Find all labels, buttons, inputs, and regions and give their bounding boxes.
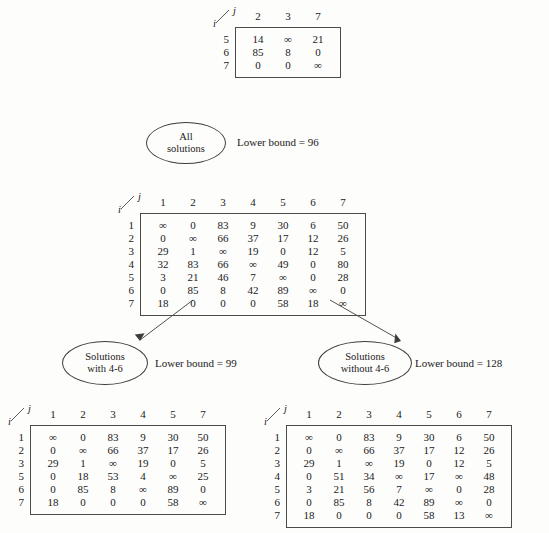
row-header: 3 [264, 457, 287, 470]
table-row: 6 0 85 8 42 89 ∞ 0 [118, 284, 366, 297]
spacer [141, 194, 149, 213]
matrix-cell: 21 [303, 33, 333, 46]
with-4-6-cost-matrix: i j 1 2 3 4 5 7 [8, 406, 226, 515]
row-spacer [213, 72, 236, 78]
table-row [118, 310, 366, 316]
matrix-cell: 56 [354, 483, 384, 496]
spacer [504, 457, 512, 470]
matrix-cell: 46 [208, 271, 238, 284]
matrix-cell: 12 [444, 457, 474, 470]
matrix-cell: 7 [384, 483, 414, 496]
spacer [218, 444, 226, 457]
spacer [358, 232, 366, 245]
matrix-cell: 83 [178, 258, 208, 271]
node-label-line2: with 4-6 [85, 363, 125, 375]
spacer [31, 406, 39, 425]
spacer [188, 509, 218, 515]
node-ellipse[interactable]: All solutions [146, 122, 226, 164]
matrix-cell: 19 [238, 245, 268, 258]
matrix-cell: 17 [158, 444, 188, 457]
matrix-cell: 21 [324, 483, 354, 496]
matrix-cell: 18 [68, 470, 98, 483]
spacer [218, 431, 226, 444]
figure-canvas: i j 2 3 7 5 14 [0, 0, 549, 533]
spacer [354, 522, 384, 528]
matrix-cell: ∞ [414, 483, 444, 496]
matrix-cell: 0 [273, 59, 303, 72]
row-header: 5 [264, 483, 287, 496]
root-cost-matrix: i j 1 2 3 4 5 6 7 [118, 194, 366, 316]
matrix-cell: 0 [178, 297, 208, 310]
table-row: 2 0 ∞ 66 37 17 26 [8, 444, 226, 457]
spacer [218, 509, 226, 515]
table-row: 6 85 8 0 [213, 46, 341, 59]
matrix-cell: 37 [238, 232, 268, 245]
table-row [8, 509, 226, 515]
spacer [358, 297, 366, 310]
node-ellipse[interactable]: Solutions without 4-6 [318, 341, 412, 385]
spacer [268, 310, 298, 316]
matrix-cell: ∞ [178, 232, 208, 245]
table-row [213, 72, 341, 78]
matrix-cell: 0 [188, 483, 218, 496]
matrix-cell: 8 [273, 46, 303, 59]
matrix-cell: 89 [268, 284, 298, 297]
matrix-cell: ∞ [158, 470, 188, 483]
spacer [273, 72, 303, 78]
spacer [358, 310, 366, 316]
matrix-cell: ∞ [208, 245, 238, 258]
node-ellipse[interactable]: Solutions with 4-6 [62, 341, 148, 385]
column-header: 5 [268, 194, 298, 213]
matrix-cell: 50 [328, 219, 358, 232]
spacer [31, 496, 39, 509]
tree-node-all-solutions[interactable]: All solutions [146, 122, 226, 164]
matrix-cell: 89 [414, 496, 444, 509]
table-row: 1 ∞ 0 83 9 30 6 50 [118, 219, 366, 232]
column-header: 5 [414, 406, 444, 425]
spacer [287, 470, 295, 483]
tree-node-with-4-6[interactable]: Solutions with 4-6 [62, 341, 148, 385]
table-row: 2 0 ∞ 66 37 17 12 26 [264, 444, 512, 457]
matrix-cell: 80 [328, 258, 358, 271]
matrix-cell: 0 [294, 444, 324, 457]
column-header: 3 [354, 406, 384, 425]
col-axis-label: j [284, 404, 287, 415]
diagonal-slash-icon [266, 407, 281, 422]
matrix-cell: 1 [324, 457, 354, 470]
spacer [358, 258, 366, 271]
tree-node-without-4-6[interactable]: Solutions without 4-6 [318, 341, 412, 385]
matrix-cell: 12 [298, 245, 328, 258]
matrix-cell: 9 [384, 431, 414, 444]
spacer [358, 245, 366, 258]
row-header: 1 [8, 431, 31, 444]
row-header: 3 [118, 245, 141, 258]
row-header: 2 [264, 444, 287, 457]
matrix-cell: 58 [414, 509, 444, 522]
matrix-cell: ∞ [444, 496, 474, 509]
matrix-cell: 0 [444, 483, 474, 496]
column-header: 1 [294, 406, 324, 425]
spacer [236, 8, 244, 27]
spacer [178, 310, 208, 316]
spacer [208, 310, 238, 316]
matrix-cell: 6 [444, 431, 474, 444]
matrix-cell: 12 [444, 444, 474, 457]
row-header: 4 [118, 258, 141, 271]
row-axis-label: i [264, 417, 267, 428]
matrix-corner-label: i j [264, 406, 287, 425]
spacer [98, 509, 128, 515]
spacer [474, 522, 504, 528]
spacer [128, 509, 158, 515]
matrix-cell: 18 [148, 297, 178, 310]
column-header: 1 [38, 406, 68, 425]
matrix-cell: 37 [128, 444, 158, 457]
column-header: 3 [208, 194, 238, 213]
spacer [333, 59, 341, 72]
spacer [287, 496, 295, 509]
node-label-line1: Solutions [341, 351, 390, 363]
row-header: 1 [118, 219, 141, 232]
matrix-cell: 83 [98, 431, 128, 444]
matrix-cell: 51 [324, 470, 354, 483]
table-row: 6 0 85 8 42 89 ∞ 0 [264, 496, 512, 509]
table-row: 5 3 21 46 7 ∞ 0 28 [118, 271, 366, 284]
